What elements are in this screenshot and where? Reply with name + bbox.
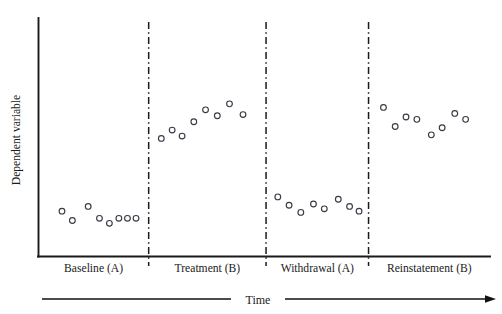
data-point — [286, 202, 292, 208]
data-point — [179, 133, 185, 139]
data-point — [158, 136, 164, 142]
phase-label-1: Baseline (A) — [64, 262, 123, 275]
data-point — [321, 206, 327, 212]
data-point — [452, 111, 458, 117]
data-point — [335, 196, 341, 202]
data-point — [311, 201, 317, 207]
data-point — [169, 127, 175, 133]
data-point — [85, 204, 91, 210]
chart-figure: Dependent variable Baseline (A)Treatment… — [0, 0, 502, 314]
data-point — [439, 125, 445, 131]
data-point — [97, 215, 103, 221]
y-axis-title: Dependent variable — [10, 95, 23, 185]
data-point — [227, 101, 233, 107]
data-point — [298, 210, 304, 216]
phase-series-1 — [59, 204, 139, 227]
phase-series-2 — [158, 101, 245, 141]
data-point — [125, 215, 131, 221]
data-point — [116, 215, 122, 221]
phase-divider-group — [149, 22, 369, 266]
data-point — [59, 208, 65, 214]
data-point — [107, 220, 113, 226]
time-arrowhead-icon — [485, 295, 496, 302]
data-point — [403, 114, 409, 120]
data-point — [414, 117, 420, 123]
data-point — [381, 105, 387, 111]
data-point — [191, 119, 197, 125]
phase-label-4: Reinstatement (B) — [387, 262, 472, 275]
data-point — [428, 132, 434, 138]
phase-label-group: Baseline (A)Treatment (B)Withdrawal (A)R… — [64, 262, 472, 275]
data-point — [347, 204, 353, 210]
data-point — [392, 124, 398, 130]
phase-series-3 — [275, 194, 362, 215]
data-point — [463, 117, 469, 123]
phase-label-3: Withdrawal (A) — [281, 262, 354, 275]
data-point — [214, 113, 220, 119]
data-point — [70, 218, 76, 224]
abab-reversal-design-chart: Dependent variable Baseline (A)Treatment… — [0, 0, 502, 314]
time-axis-group: Time — [42, 293, 496, 307]
data-point — [240, 112, 246, 118]
phase-series-4 — [381, 105, 469, 138]
phase-label-2: Treatment (B) — [175, 262, 241, 275]
axis-group — [38, 18, 490, 257]
data-point — [275, 194, 281, 200]
time-axis-label: Time — [246, 293, 271, 307]
data-point — [356, 208, 362, 214]
data-point — [133, 215, 139, 221]
data-point-group — [59, 101, 468, 226]
data-point — [203, 107, 209, 113]
